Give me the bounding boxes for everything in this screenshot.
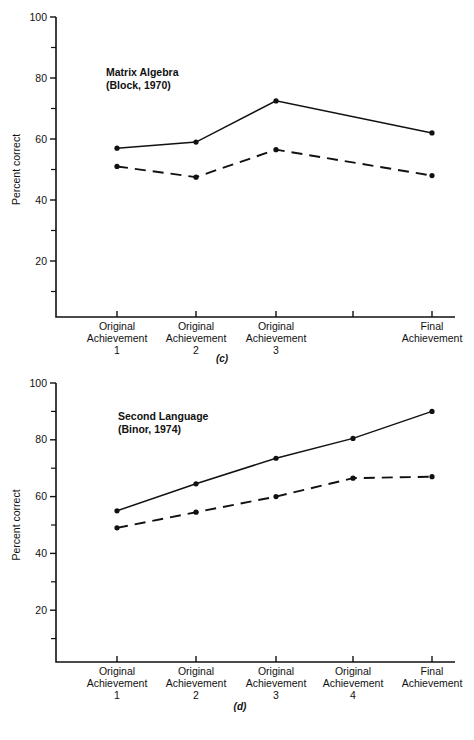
data-point-marker — [273, 98, 278, 103]
chart-subtitle: (Binor, 1974) — [118, 423, 181, 435]
y-axis-tick-label: 40 — [35, 547, 47, 559]
data-point-marker — [193, 510, 198, 515]
chart-panel-c: 20406080100Percent correctOriginalAchiev… — [0, 0, 474, 370]
data-point-marker — [193, 175, 198, 180]
data-point-marker — [273, 147, 278, 152]
data-point-marker — [114, 508, 119, 513]
x-axis-tick-label: 1 — [114, 689, 120, 701]
y-axis-tick-label: 100 — [29, 377, 47, 389]
data-point-marker — [350, 476, 355, 481]
chart-c-canvas: 20406080100Percent correctOriginalAchiev… — [0, 0, 474, 370]
chart-subtitle: (Block, 1970) — [106, 79, 171, 91]
chart-title: Second Language — [118, 410, 209, 422]
series-line-solid — [117, 101, 432, 148]
data-point-marker — [114, 164, 119, 169]
x-axis-tick-label: Final — [421, 665, 444, 677]
y-axis-tick-label: 60 — [35, 133, 47, 145]
chart-axes — [56, 383, 455, 662]
y-axis-tick-label: 80 — [35, 72, 47, 84]
x-axis-tick-label: Achievement — [87, 677, 148, 689]
data-point-marker — [273, 456, 278, 461]
x-axis-tick-label: Original — [99, 320, 135, 332]
data-point-marker — [114, 146, 119, 151]
y-axis-tick-label: 80 — [35, 433, 47, 445]
x-axis-tick-label: Original — [99, 665, 135, 677]
data-point-marker — [429, 173, 434, 178]
x-axis-tick-label: Achievement — [87, 332, 148, 344]
data-point-marker — [429, 130, 434, 135]
data-point-marker — [114, 525, 119, 530]
x-axis-tick-label: 2 — [193, 689, 199, 701]
x-axis-tick-label: Achievement — [402, 332, 463, 344]
figure-page: 20406080100Percent correctOriginalAchiev… — [0, 0, 474, 740]
x-axis-tick-label: Achievement — [166, 677, 227, 689]
x-axis-tick-label: 1 — [114, 344, 120, 356]
chart-title: Matrix Algebra — [106, 66, 179, 78]
chart-panel-d: 20406080100Percent correctOriginalAchiev… — [0, 370, 474, 740]
y-axis-title: Percent correct — [10, 134, 22, 205]
x-axis-tick-label: 3 — [273, 344, 279, 356]
data-point-marker — [193, 481, 198, 486]
x-axis-tick-label: 2 — [193, 344, 199, 356]
data-point-marker — [429, 474, 434, 479]
x-axis-tick-label: Achievement — [246, 332, 307, 344]
y-axis-tick-label: 100 — [29, 11, 47, 23]
y-axis-title: Percent correct — [10, 489, 22, 560]
x-axis-tick-label: Achievement — [323, 677, 384, 689]
x-axis-tick-label: Final — [421, 320, 444, 332]
panel-caption: (c) — [216, 353, 229, 364]
x-axis-tick-label: Achievement — [246, 677, 307, 689]
data-point-marker — [193, 139, 198, 144]
x-axis-tick-label: Original — [258, 665, 294, 677]
x-axis-tick-label: Original — [335, 665, 371, 677]
x-axis-tick-label: Original — [258, 320, 294, 332]
y-axis-tick-label: 20 — [35, 255, 47, 267]
y-axis-tick-label: 20 — [35, 604, 47, 616]
y-axis-tick-label: 60 — [35, 490, 47, 502]
x-axis-tick-label: Achievement — [402, 677, 463, 689]
x-axis-tick-label: 4 — [350, 689, 356, 701]
series-line-dashed — [117, 477, 432, 528]
y-axis-tick-label: 40 — [35, 194, 47, 206]
series-line-dashed — [117, 150, 432, 177]
x-axis-tick-label: Achievement — [166, 332, 227, 344]
panel-caption: (d) — [234, 701, 247, 712]
data-point-marker — [429, 409, 434, 414]
x-axis-tick-label: 3 — [273, 689, 279, 701]
x-axis-tick-label: Original — [178, 320, 214, 332]
x-axis-tick-label: Original — [178, 665, 214, 677]
data-point-marker — [273, 494, 278, 499]
data-point-marker — [350, 436, 355, 441]
chart-d-canvas: 20406080100Percent correctOriginalAchiev… — [0, 370, 474, 740]
